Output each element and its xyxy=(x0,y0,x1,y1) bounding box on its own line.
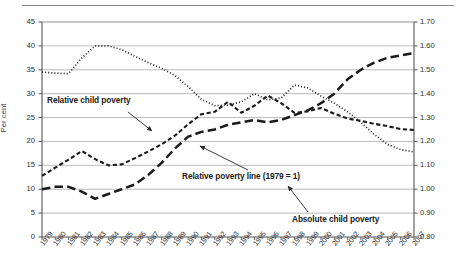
y-tick-right: 1.30 xyxy=(420,113,450,122)
y-tick-left: 30 xyxy=(13,89,35,98)
y-tick-right: 1.00 xyxy=(420,184,450,193)
y-tick-left: 40 xyxy=(13,41,35,50)
annotation-relative-poverty-line: Relative poverty line (1979 = 1) xyxy=(182,171,300,181)
chart-canvas xyxy=(0,0,464,269)
y-tick-right: 1.20 xyxy=(420,136,450,145)
y-tick-left: 15 xyxy=(13,160,35,169)
y-tick-left: 25 xyxy=(13,113,35,122)
y-tick-left: 45 xyxy=(13,17,35,26)
y-tick-left: 20 xyxy=(13,136,35,145)
annotation-relative-child-poverty: Relative child poverty xyxy=(47,95,131,105)
y-tick-left: 5 xyxy=(13,208,35,217)
annotation-absolute-child-poverty: Absolute child poverty xyxy=(292,214,379,224)
plot-area: Per cent 051015202530354045 0.800.901.00… xyxy=(0,0,464,269)
y-tick-right: 1.50 xyxy=(420,65,450,74)
y-tick-left: 0 xyxy=(13,232,35,241)
chart-figure: Per cent 051015202530354045 0.800.901.00… xyxy=(0,0,464,269)
y-tick-left: 10 xyxy=(13,184,35,193)
y-tick-right: 1.60 xyxy=(420,41,450,50)
y-tick-right: 1.10 xyxy=(420,160,450,169)
y-tick-right: 1.40 xyxy=(420,89,450,98)
y-tick-right: 1.70 xyxy=(420,17,450,26)
y-tick-left: 35 xyxy=(13,65,35,74)
y-tick-right: 0.90 xyxy=(420,208,450,217)
